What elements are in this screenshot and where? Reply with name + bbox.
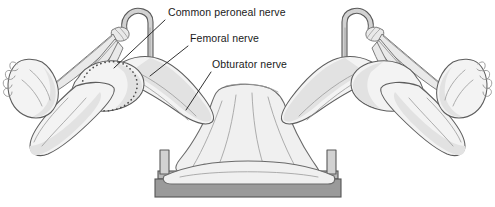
label-femoral-nerve: Femoral nerve [190,32,259,44]
label-common-peroneal-nerve: Common peroneal nerve [168,6,286,18]
label-obturator-nerve: Obturator nerve [212,58,287,70]
lithotomy-illustration-svg: Common peroneal nerve Femoral nerve Obtu… [0,0,495,207]
illustration-figure: Common peroneal nerve Femoral nerve Obtu… [0,0,495,207]
